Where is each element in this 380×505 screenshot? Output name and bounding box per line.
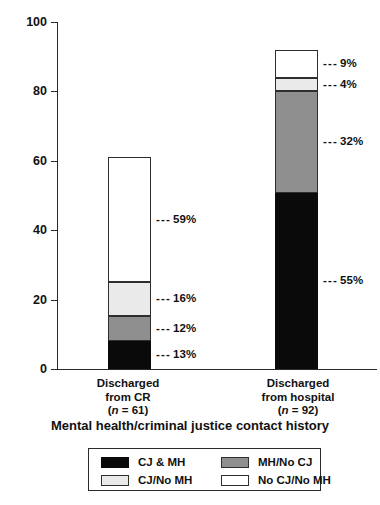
y-axis-line <box>57 22 58 370</box>
x-axis-label-discharged-from-hospital: Dischargedfrom hospital(n = 92) <box>228 377 368 418</box>
y-tick-mark-100 <box>51 22 58 23</box>
data-label-value: 59% <box>173 213 196 225</box>
legend: CJ & MH MH/No CJ CJ/No MH No CJ/No MH <box>88 448 321 491</box>
n-symbol: n <box>112 404 119 416</box>
x-label-sample-size: (n = 92) <box>228 404 368 418</box>
legend-item-no-cj-no-mh[interactable]: No CJ/No MH <box>221 475 331 487</box>
data-label-value: 13% <box>173 348 196 360</box>
y-tick-mark-80 <box>51 91 58 92</box>
x-label-line-2: from CR <box>58 391 198 405</box>
data-label-no-cj-no-mh: ---9% <box>323 58 357 70</box>
data-label-value: 12% <box>173 322 196 334</box>
sample-size-value: = 92) <box>289 404 319 416</box>
legend-label-mh-no-cj: MH/No CJ <box>258 457 312 469</box>
legend-item-cj-no-mh[interactable]: CJ/No MH <box>101 475 192 487</box>
leader-dash-icon: --- <box>323 78 338 90</box>
data-label-mh-no-cj: ---32% <box>323 136 363 148</box>
bar-discharged-from-hospital[interactable] <box>275 50 318 369</box>
x-label-line-1: Discharged <box>228 377 368 391</box>
bar-segment-mh-no-cj[interactable] <box>275 91 318 193</box>
x-label-line-2: from hospital <box>228 391 368 405</box>
x-label-line-1: Discharged <box>58 377 198 391</box>
legend-swatch-cj-and-mh <box>101 457 129 468</box>
data-label-no-cj-no-mh: ---59% <box>156 214 196 226</box>
leader-dash-icon: --- <box>323 135 338 147</box>
y-tick-label-40: 40 <box>3 224 47 237</box>
legend-label-cj-no-mh: CJ/No MH <box>138 475 192 487</box>
stacked-bar-chart: 100 80 60 40 20 0 ---13%---12%---16%---5… <box>0 0 380 505</box>
legend-item-cj-and-mh[interactable]: CJ & MH <box>101 457 185 469</box>
leader-dash-icon: --- <box>156 348 171 360</box>
legend-label-cj-and-mh: CJ & MH <box>138 457 185 469</box>
leader-dash-icon: --- <box>323 57 338 69</box>
bar-discharged-from-cr[interactable] <box>108 157 151 369</box>
plot-area: 100 80 60 40 20 0 ---13%---12%---16%---5… <box>0 0 380 380</box>
y-tick-label-80: 80 <box>3 85 47 98</box>
bar-segment-cj-no-mh[interactable] <box>275 78 318 91</box>
data-label-cj-no-mh: ---4% <box>323 79 357 91</box>
legend-swatch-mh-no-cj <box>221 457 249 468</box>
data-label-value: 4% <box>340 78 357 90</box>
x-axis-title: Mental health/criminal justice contact h… <box>0 418 380 433</box>
data-label-cj-no-mh: ---16% <box>156 293 196 305</box>
y-tick-label-100: 100 <box>3 16 47 29</box>
legend-label-no-cj-no-mh: No CJ/No MH <box>258 475 331 487</box>
y-tick-mark-60 <box>51 161 58 162</box>
sample-size-value: = 61) <box>119 404 149 416</box>
legend-item-mh-no-cj[interactable]: MH/No CJ <box>221 457 312 469</box>
y-tick-label-20: 20 <box>3 294 47 307</box>
x-axis-line <box>57 369 377 370</box>
data-label-cj-and-mh: ---55% <box>323 275 363 287</box>
leader-dash-icon: --- <box>156 292 171 304</box>
data-label-mh-no-cj: ---12% <box>156 323 196 335</box>
x-axis-label-discharged-from-cr: Dischargedfrom CR(n = 61) <box>58 377 198 418</box>
leader-dash-icon: --- <box>323 274 338 286</box>
bar-segment-cj-and-mh[interactable] <box>108 341 151 369</box>
leader-dash-icon: --- <box>156 322 171 334</box>
x-label-sample-size: (n = 61) <box>58 404 198 418</box>
legend-swatch-no-cj-no-mh <box>221 475 249 486</box>
data-label-cj-and-mh: ---13% <box>156 349 196 361</box>
data-label-value: 9% <box>340 57 357 69</box>
data-label-value: 32% <box>340 135 363 147</box>
data-label-value: 16% <box>173 292 196 304</box>
n-symbol: n <box>282 404 289 416</box>
legend-swatch-cj-no-mh <box>101 475 129 486</box>
bar-segment-no-cj-no-mh[interactable] <box>108 157 151 282</box>
y-tick-mark-0 <box>51 369 58 370</box>
bar-segment-no-cj-no-mh[interactable] <box>275 50 318 79</box>
bar-segment-cj-no-mh[interactable] <box>108 282 151 316</box>
leader-dash-icon: --- <box>156 213 171 225</box>
y-tick-label-0: 0 <box>3 363 47 376</box>
bar-segment-mh-no-cj[interactable] <box>108 316 151 341</box>
y-tick-label-60: 60 <box>3 155 47 168</box>
y-tick-mark-40 <box>51 230 58 231</box>
y-tick-mark-20 <box>51 300 58 301</box>
bar-segment-cj-and-mh[interactable] <box>275 193 318 369</box>
data-label-value: 55% <box>340 274 363 286</box>
